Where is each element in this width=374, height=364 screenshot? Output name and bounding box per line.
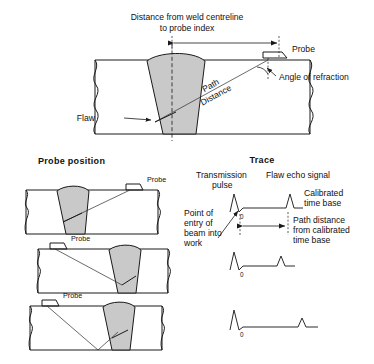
dimension-label-line1: Distance from weld centreline: [131, 12, 244, 22]
trace-zero-3: 0: [240, 331, 244, 338]
transmission-pulse-line2: pulse: [212, 180, 233, 190]
probe-label: Probe: [292, 44, 315, 54]
plate-body-2: [38, 249, 168, 293]
path-distance-caption-line3: time base: [293, 235, 330, 245]
plate-body-1: [26, 190, 158, 234]
trace-waveform-2: 0: [230, 252, 295, 278]
top-weld-diagram: Distance from weld centreline to probe i…: [77, 12, 349, 141]
point-of-entry-leader: [218, 211, 238, 238]
probe-position-section: Probe position Probe Probe: [25, 156, 170, 350]
point-of-entry-line3: beam into: [184, 228, 222, 238]
point-of-entry-line2: entry of: [184, 218, 213, 228]
probe-position-item-2: Probe: [37, 234, 170, 293]
flaw-echo-label: Flaw echo signal: [266, 170, 330, 180]
plate-body-3: [30, 306, 162, 350]
path-distance-caption-line1: Path distance: [293, 215, 345, 225]
figure-root: Distance from weld centreline to probe i…: [0, 0, 374, 364]
probe-shoe-3: [42, 300, 59, 306]
point-of-entry-line1: Point of: [184, 208, 214, 218]
point-of-entry-line4: work: [183, 238, 203, 248]
trace-line-2: [230, 252, 295, 270]
trace-heading: Trace: [249, 155, 274, 165]
trace-zero-1: 0: [240, 213, 244, 220]
figure-svg: Distance from weld centreline to probe i…: [0, 0, 374, 364]
trace-line-1: [230, 194, 303, 212]
probe-shoe-1: [126, 184, 143, 190]
probe-position-item-1: Probe: [25, 175, 166, 234]
flaw-label: Flaw: [77, 113, 96, 123]
probe-label-3: Probe: [63, 291, 82, 300]
probe-label-2: Probe: [71, 234, 90, 243]
angle-of-refraction-label: Angle of refraction: [279, 72, 349, 82]
trace-waveform-3: 0: [230, 310, 318, 338]
dimension-label-line2: to probe index: [160, 23, 215, 33]
trace-line-3: [230, 310, 318, 330]
calibrated-line1: Calibrated: [304, 188, 343, 198]
probe-position-heading: Probe position: [38, 156, 105, 166]
trace-zero-2: 0: [240, 271, 244, 278]
probe-position-item-3: Probe: [29, 291, 164, 350]
probe-shoe-2: [50, 243, 67, 249]
calibrated-line2: time base: [304, 198, 341, 208]
trace-section: Trace Transmission pulse Flaw echo signa…: [183, 155, 350, 338]
probe-label-1: Probe: [147, 175, 166, 184]
transmission-pulse-line1: Transmission: [196, 170, 247, 180]
path-distance-caption-line2: from calibrated: [293, 225, 350, 235]
probe-shoe: [263, 52, 287, 58]
